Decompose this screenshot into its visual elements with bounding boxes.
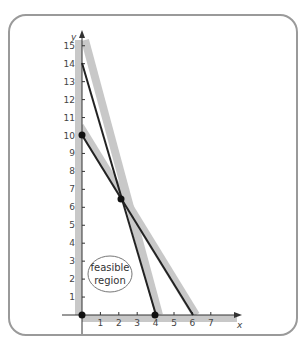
y-tick-label: 6 xyxy=(69,202,75,212)
vertex-origin xyxy=(79,312,86,319)
x-axis-arrow-icon xyxy=(234,312,242,318)
y-tick-label: 14 xyxy=(64,59,76,69)
x-axis-label: x xyxy=(236,320,243,330)
y-tick-label: 5 xyxy=(69,220,75,230)
chart: 1234567 123456789101112131415 x y feasib… xyxy=(0,0,308,349)
y-tick-label: 15 xyxy=(64,41,75,51)
x-tick-label: 2 xyxy=(116,318,122,328)
x-tick-label: 7 xyxy=(208,318,214,328)
vertex-4-0 xyxy=(152,312,159,319)
y-tick-label: 3 xyxy=(69,256,75,266)
y-tick-label: 1 xyxy=(69,292,75,302)
y-tick-label: 11 xyxy=(64,113,75,123)
y-tick-label: 7 xyxy=(69,184,75,194)
y-axis-arrow-icon xyxy=(79,30,85,38)
x-tick-label: 5 xyxy=(171,318,177,328)
y-axis-label: y xyxy=(70,32,77,42)
vertex-intersection xyxy=(118,196,125,203)
y-tick-label: 4 xyxy=(69,238,75,248)
x-tick-label: 3 xyxy=(134,318,140,328)
y-tick-label: 12 xyxy=(64,95,75,105)
y-tick-label: 13 xyxy=(64,77,75,87)
region-label-line2: region xyxy=(94,275,126,286)
x-tick-label: 1 xyxy=(98,318,104,328)
x-tick-label: 6 xyxy=(190,318,196,328)
y-tick-label: 10 xyxy=(64,131,76,141)
vertex-0-10 xyxy=(79,132,86,139)
x-axis-band xyxy=(82,315,237,322)
y-tick-label: 9 xyxy=(69,148,75,158)
x-tick-label: 4 xyxy=(153,318,159,328)
region-label-line1: feasible xyxy=(90,262,129,273)
y-tick-label: 2 xyxy=(69,274,75,284)
y-tick-labels: 123456789101112131415 xyxy=(64,41,76,302)
y-tick-label: 8 xyxy=(69,166,75,176)
y-axis-band xyxy=(75,40,82,315)
